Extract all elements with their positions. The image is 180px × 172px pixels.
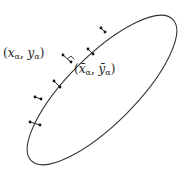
foot-point <box>40 98 43 101</box>
diagram-canvas: (xα, yα) (x̄α, ȳα) <box>0 0 180 172</box>
fitted-ellipse <box>7 0 180 172</box>
foot-point <box>53 80 56 83</box>
data-point <box>34 96 37 99</box>
foot-point <box>104 31 107 34</box>
data-point <box>62 54 65 57</box>
label-foot-point: (x̄α, ȳα) <box>74 62 115 77</box>
data-point <box>100 27 103 30</box>
data-point <box>39 124 42 127</box>
data-point <box>92 53 95 56</box>
data-point <box>59 86 62 89</box>
foot-point <box>29 121 32 124</box>
label-data-point: (xα, yα) <box>3 46 44 61</box>
foot-point <box>70 61 73 64</box>
foot-point <box>87 48 90 51</box>
right-angle-marker <box>68 56 75 59</box>
